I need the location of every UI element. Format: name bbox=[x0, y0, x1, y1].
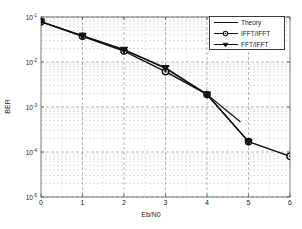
x-tick-label: 6 bbox=[288, 199, 292, 206]
legend-item-ifft-ifft[interactable]: IFFT/IFFT bbox=[210, 28, 284, 39]
x-tick-label: 3 bbox=[164, 199, 168, 206]
legend-swatch-theory bbox=[213, 17, 239, 28]
y-tick-label: 10-2 bbox=[14, 58, 37, 66]
x-tick-label: 2 bbox=[122, 199, 126, 206]
ber-chart-figure: 0123456 10-110-210-310-410-5 Eb/N0 BER T… bbox=[0, 0, 302, 229]
legend-swatch-fft-ifft bbox=[213, 39, 239, 50]
x-tick-label: 5 bbox=[247, 199, 251, 206]
y-tick-label: 10-1 bbox=[14, 13, 37, 21]
legend-swatch-ifft-ifft bbox=[213, 28, 239, 39]
legend-label-fft-ifft: FFT/IFFT bbox=[241, 41, 268, 48]
x-tick-label: 0 bbox=[39, 199, 43, 206]
legend-label-theory: Theory bbox=[241, 19, 261, 26]
triangle-down-marker-icon bbox=[222, 41, 229, 48]
x-axis-label: Eb/N0 bbox=[0, 211, 302, 218]
y-tick-label: 10-3 bbox=[14, 103, 37, 111]
legend-item-theory[interactable]: Theory bbox=[210, 17, 284, 28]
legend-item-fft-ifft[interactable]: FFT/IFFT bbox=[210, 39, 284, 50]
circle-marker-icon bbox=[222, 30, 229, 37]
y-axis-label: BER bbox=[4, 87, 11, 127]
x-tick-label: 4 bbox=[205, 199, 209, 206]
legend-label-ifft-ifft: IFFT/IFFT bbox=[241, 30, 270, 37]
y-tick-label: 10-4 bbox=[14, 148, 37, 156]
x-tick-label: 1 bbox=[81, 199, 85, 206]
y-tick-label: 10-5 bbox=[14, 193, 37, 201]
chart-legend[interactable]: Theory IFFT/IFFT FFT/IFFT bbox=[209, 16, 285, 50]
